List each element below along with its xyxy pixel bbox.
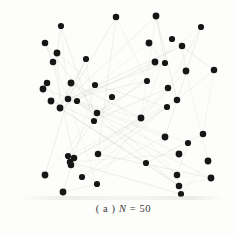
graph-edge: [57, 26, 61, 53]
graph-node: [174, 172, 181, 179]
graph-edge: [63, 184, 97, 192]
graph-node: [164, 104, 170, 110]
graph-node: [162, 60, 168, 66]
graph-node: [42, 40, 49, 47]
figure-page: ( a ) N = 50: [0, 0, 238, 234]
graph-node: [162, 134, 169, 141]
figure-caption: ( a ) N = 50: [0, 203, 238, 214]
graph-node: [95, 151, 102, 158]
graph-node: [198, 24, 204, 30]
graph-edge: [68, 16, 156, 99]
graph-node: [153, 13, 160, 20]
graph-node: [40, 86, 47, 93]
graph-edge: [181, 161, 208, 194]
graph-node: [146, 40, 153, 47]
graph-node: [208, 175, 215, 182]
graph-node: [143, 160, 149, 166]
graph-node: [79, 174, 85, 180]
graph-node: [138, 115, 145, 122]
graph-node: [83, 56, 89, 62]
graph-node: [94, 181, 100, 187]
graph-node: [58, 23, 64, 29]
graph-edge: [186, 71, 208, 161]
graph-node: [211, 67, 218, 74]
graph-edge: [68, 17, 116, 99]
graph-edge: [155, 27, 201, 62]
graph-node: [200, 131, 207, 138]
graph-node: [169, 36, 175, 42]
graph-node: [68, 80, 75, 87]
graph-node: [44, 80, 51, 87]
graph-edge: [68, 59, 86, 99]
graph-node: [165, 85, 172, 92]
graph-edge: [97, 118, 141, 184]
graph-node: [68, 162, 75, 169]
graph-node: [183, 68, 190, 75]
graph-edge: [98, 88, 168, 154]
graph-edge: [57, 53, 95, 85]
graph-edge: [182, 46, 186, 71]
graph-node: [57, 105, 64, 112]
graph-node: [176, 183, 183, 190]
graph-node: [174, 97, 181, 104]
scan-smudge: [22, 196, 222, 200]
graph-node: [144, 78, 150, 84]
graph-edge: [179, 178, 211, 186]
caption-index-label: ( a ): [96, 203, 119, 214]
graph-node: [42, 172, 49, 179]
graph-node: [54, 50, 61, 57]
graph-node: [65, 96, 72, 103]
graph-node: [91, 118, 97, 124]
graph-node: [179, 43, 186, 50]
caption-value: = 50: [127, 203, 152, 214]
graph-node: [185, 140, 191, 146]
graph-node: [50, 59, 57, 66]
graph-node: [152, 59, 159, 66]
graph-edge: [94, 88, 168, 121]
graph-node: [109, 94, 115, 100]
graph-node: [60, 189, 67, 196]
graph-edge: [203, 70, 214, 134]
graph-edge: [60, 108, 179, 186]
graph-edges: [43, 16, 214, 194]
graph-node: [48, 98, 55, 105]
graph-node: [176, 151, 183, 158]
graph-edge: [172, 39, 214, 70]
graph-node: [113, 14, 120, 21]
caption-variable: N: [119, 203, 127, 214]
graph-node: [92, 82, 98, 88]
graph-node: [205, 158, 212, 165]
graph-edge: [70, 162, 181, 194]
graph-node: [65, 153, 71, 159]
graph-node: [74, 98, 80, 104]
graph-edge: [45, 99, 68, 175]
graph-node: [94, 110, 101, 117]
graph-edge: [177, 143, 188, 175]
